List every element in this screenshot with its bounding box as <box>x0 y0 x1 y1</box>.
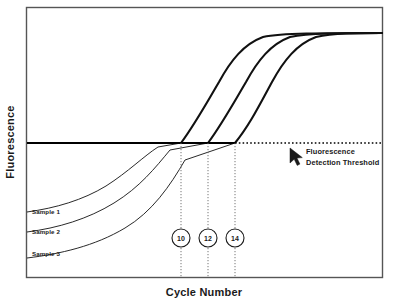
threshold-annotation-line1: Fluorescence <box>306 147 355 156</box>
sample-label-2: Sample 2 <box>32 228 60 235</box>
x-axis-title: Cycle Number <box>166 286 243 298</box>
cycle-marker-12: 12 <box>199 229 217 247</box>
chart-svg: 10 12 14 Sample 1 Sample 2 Sample 3 Fluo… <box>0 0 399 303</box>
threshold-annotation-line2: Detection Threshold <box>306 158 380 167</box>
y-axis-title: Fluorescence <box>4 105 16 178</box>
cycle-marker-label: 12 <box>204 235 212 242</box>
cycle-marker-14: 14 <box>226 229 244 247</box>
cycle-marker-label: 10 <box>177 235 185 242</box>
cycle-marker-label: 14 <box>231 235 239 242</box>
sample-label-3: Sample 3 <box>32 250 60 257</box>
qpcr-amplification-figure: 10 12 14 Sample 1 Sample 2 Sample 3 Fluo… <box>0 0 399 303</box>
sample-label-1: Sample 1 <box>32 208 60 215</box>
cycle-marker-10: 10 <box>172 229 190 247</box>
